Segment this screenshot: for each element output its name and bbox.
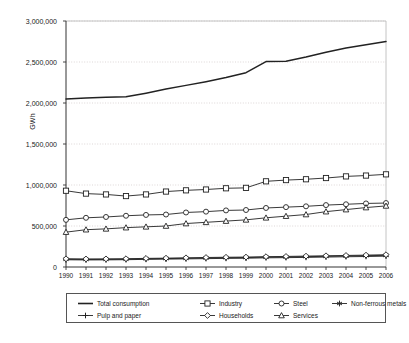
x-axis-tick-label: 1990 <box>59 272 73 279</box>
legend-label: Steel <box>293 299 308 308</box>
data-point-marker <box>63 188 68 193</box>
data-point-marker <box>104 214 109 219</box>
legend-item-non-ferrous-metals[interactable]: Non-ferrous metals <box>331 299 406 308</box>
legend-marker-asterisk-icon <box>331 299 348 308</box>
x-axis-tick-label: 2005 <box>359 272 373 279</box>
data-point-marker <box>123 193 128 198</box>
x-axis-tick-label: 1992 <box>99 272 113 279</box>
x-axis-tick-label: 1997 <box>199 272 213 279</box>
x-axis-tick-label: 2000 <box>259 272 273 279</box>
chart-legend: Total consumptionIndustrySteelNon-ferrou… <box>66 293 386 323</box>
data-point-marker <box>164 212 169 217</box>
x-axis-tick-label: 2003 <box>319 272 333 279</box>
data-point-marker <box>183 188 188 193</box>
series-line <box>66 174 386 196</box>
x-axis-tick-label: 1991 <box>79 272 93 279</box>
x-axis-tick-label: 1996 <box>179 272 193 279</box>
legend-item-pulp-and-paper[interactable]: Pulp and paper <box>77 311 141 320</box>
x-axis-tick-label: 2006 <box>379 272 393 279</box>
data-point-marker <box>224 208 229 213</box>
legend-label: Industry <box>219 299 242 308</box>
data-point-marker <box>279 301 284 306</box>
legend-row: Total consumptionIndustrySteelNon-ferrou… <box>71 297 381 309</box>
x-axis-tick-label: 2001 <box>279 272 293 279</box>
data-point-marker <box>205 312 211 318</box>
legend-marker-none-icon <box>77 299 94 308</box>
x-axis-tick-label: 1999 <box>239 272 253 279</box>
data-point-marker <box>323 175 328 180</box>
x-axis-tick-label: 1995 <box>159 272 173 279</box>
data-point-marker <box>163 189 168 194</box>
data-point-marker <box>283 177 288 182</box>
legend-marker-diamond-icon <box>199 311 216 320</box>
legend-row: Pulp and paperHouseholdsServices <box>71 309 381 321</box>
line-chart <box>0 0 409 343</box>
data-point-marker <box>143 192 148 197</box>
legend-item-services[interactable]: Services <box>273 311 318 320</box>
series-line <box>66 42 386 99</box>
data-point-marker <box>83 312 89 318</box>
data-point-marker <box>244 208 249 213</box>
legend-label: Households <box>219 311 253 320</box>
x-axis-tick-label: 1994 <box>139 272 153 279</box>
data-point-marker <box>64 217 69 222</box>
legend-label: Pulp and paper <box>97 311 141 320</box>
data-point-marker <box>223 186 228 191</box>
x-axis-tick-label: 2002 <box>299 272 313 279</box>
data-point-marker <box>324 203 329 208</box>
data-point-marker <box>263 179 268 184</box>
data-point-marker <box>124 213 129 218</box>
data-point-marker <box>205 300 210 305</box>
legend-item-total-consumption[interactable]: Total consumption <box>77 299 149 308</box>
legend-label: Non-ferrous metals <box>351 299 406 308</box>
data-point-marker <box>243 185 248 190</box>
legend-item-industry[interactable]: Industry <box>199 299 242 308</box>
legend-label: Total consumption <box>97 299 149 308</box>
data-point-marker <box>83 191 88 196</box>
legend-item-steel[interactable]: Steel <box>273 299 308 308</box>
data-point-marker <box>304 204 309 209</box>
data-point-marker <box>363 173 368 178</box>
data-point-marker <box>204 209 209 214</box>
data-point-marker <box>383 172 388 177</box>
data-point-marker <box>144 212 149 217</box>
legend-label: Services <box>293 311 318 320</box>
x-axis-tick-label: 1998 <box>219 272 233 279</box>
data-point-marker <box>303 177 308 182</box>
data-point-marker <box>343 174 348 179</box>
data-point-marker <box>84 215 89 220</box>
x-axis-tick-label: 2004 <box>339 272 353 279</box>
legend-item-households[interactable]: Households <box>199 311 253 320</box>
legend-marker-plus-icon <box>77 311 94 320</box>
x-axis-tick-label: 1993 <box>119 272 133 279</box>
data-point-marker <box>184 210 189 215</box>
series-total-consumption <box>66 42 386 99</box>
data-point-marker <box>103 192 108 197</box>
legend-marker-circle-icon <box>273 299 290 308</box>
legend-marker-square-icon <box>199 299 216 308</box>
data-point-marker <box>284 205 289 210</box>
legend-marker-triangle-icon <box>273 311 290 320</box>
data-point-marker <box>264 205 269 210</box>
data-point-marker <box>203 187 208 192</box>
